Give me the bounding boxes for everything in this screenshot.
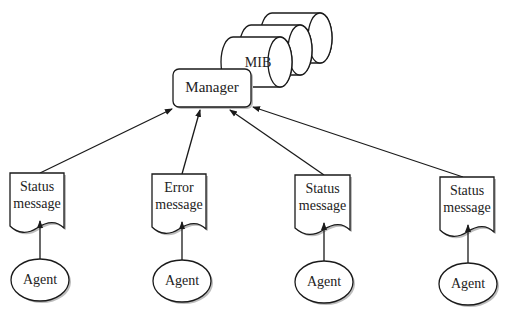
arrow-message4-manager: [253, 107, 463, 177]
message-2-label: Error message: [152, 179, 206, 213]
message-4-line2: message: [440, 199, 494, 216]
message-4-line1: Status: [440, 182, 494, 199]
message-3-line1: Status: [295, 180, 350, 197]
message-documents: [10, 173, 496, 238]
agent-2-label: Agent: [153, 272, 211, 289]
agent-1-label: Agent: [11, 271, 69, 288]
agent-nodes: [11, 259, 499, 307]
message-4-label: Status message: [440, 182, 494, 216]
message-1-label: Status message: [10, 178, 64, 212]
message-2-line1: Error: [152, 179, 206, 196]
agent-4-label: Agent: [439, 275, 497, 292]
message-1-line1: Status: [10, 178, 64, 195]
diagram-canvas: [0, 0, 507, 321]
agent-3-label: Agent: [295, 273, 353, 290]
message-3-label: Status message: [295, 180, 350, 214]
message-to-manager-arrows: [40, 107, 463, 177]
manager-label: Manager: [173, 79, 251, 96]
arrow-message2-manager: [182, 110, 200, 174]
agent-to-message-arrows: [40, 221, 468, 264]
arrow-message3-manager: [230, 110, 324, 175]
mib-label: MIB: [236, 54, 280, 71]
arrow-message1-manager: [40, 109, 172, 173]
message-3-line2: message: [295, 197, 350, 214]
message-1-line2: message: [10, 195, 64, 212]
message-2-line2: message: [152, 196, 206, 213]
